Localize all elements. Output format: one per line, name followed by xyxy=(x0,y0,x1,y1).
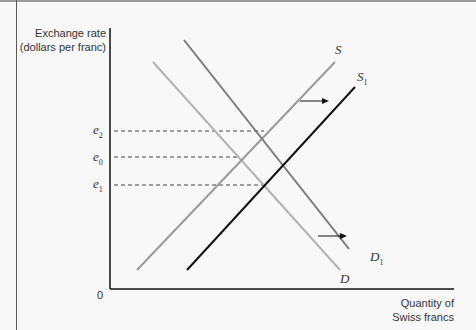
tick-e1: e1 xyxy=(93,176,103,194)
label-s-base: S xyxy=(335,42,342,57)
label-d: D xyxy=(340,271,349,287)
supply-shift-arrow-icon xyxy=(300,98,329,104)
label-d1-sub: 1 xyxy=(379,258,383,267)
y-axis-label: Exchange rate (dollars per franc) xyxy=(20,26,106,54)
tick-e1-sub: 1 xyxy=(99,185,103,194)
label-d1-base: D xyxy=(370,249,379,264)
y-axis-label-line1: Exchange rate xyxy=(20,26,106,40)
demand-curve-d xyxy=(153,62,340,270)
x-axis-label-line1: Quantity of xyxy=(392,296,454,310)
label-s: S xyxy=(335,42,342,58)
y-axis-label-line2: (dollars per franc) xyxy=(20,40,106,54)
demand-curve-d1 xyxy=(184,40,349,249)
tick-e0: e0 xyxy=(93,149,103,167)
label-s1-sub: 1 xyxy=(364,78,368,87)
supply-curve-s1 xyxy=(187,87,355,270)
x-axis-label-line2: Swiss francs xyxy=(392,310,454,324)
label-d-base: D xyxy=(340,271,349,286)
tick-e2-sub: 2 xyxy=(99,131,103,140)
tick-e2: e2 xyxy=(93,122,103,140)
label-d1: D1 xyxy=(370,249,383,267)
origin-label: 0 xyxy=(97,288,103,302)
label-s1: S1 xyxy=(357,69,368,87)
demand-shift-arrow-icon xyxy=(318,233,347,239)
supply-curve-s xyxy=(137,62,335,270)
x-axis-label: Quantity of Swiss francs xyxy=(392,296,454,324)
tick-e0-sub: 0 xyxy=(99,158,103,167)
